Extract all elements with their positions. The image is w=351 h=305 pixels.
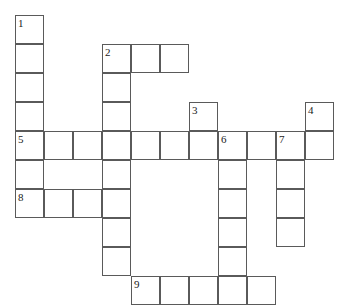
crossword-cell[interactable] [102, 218, 131, 247]
clue-number: 5 [18, 132, 24, 146]
crossword-cell[interactable] [218, 160, 247, 189]
clue-number: 4 [308, 103, 314, 117]
crossword-cell[interactable] [247, 276, 276, 305]
crossword-cell[interactable] [276, 189, 305, 218]
crossword-cell[interactable] [102, 160, 131, 189]
crossword-cell[interactable] [218, 276, 247, 305]
crossword-cell[interactable] [15, 73, 44, 102]
crossword-cell[interactable]: 7 [276, 131, 305, 160]
crossword-cell[interactable]: 2 [102, 44, 131, 73]
crossword-cell[interactable] [276, 160, 305, 189]
clue-number: 6 [221, 132, 227, 146]
crossword-cell[interactable] [131, 44, 160, 73]
crossword-cell[interactable] [73, 189, 102, 218]
clue-number: 8 [18, 190, 24, 204]
crossword-cell[interactable]: 1 [15, 15, 44, 44]
crossword-cell[interactable] [247, 131, 276, 160]
crossword-cell[interactable] [15, 102, 44, 131]
crossword-cell[interactable] [44, 131, 73, 160]
clue-number: 2 [105, 45, 111, 59]
crossword-cell[interactable] [131, 131, 160, 160]
crossword-cell[interactable]: 8 [15, 189, 44, 218]
crossword-cell[interactable] [189, 276, 218, 305]
crossword-cell[interactable] [189, 131, 218, 160]
crossword-cell[interactable] [102, 102, 131, 131]
crossword-cell[interactable]: 9 [131, 276, 160, 305]
crossword-cell[interactable]: 5 [15, 131, 44, 160]
crossword-cell[interactable] [218, 247, 247, 276]
crossword-cell[interactable] [15, 160, 44, 189]
clue-number: 1 [18, 16, 24, 30]
crossword-cell[interactable] [15, 44, 44, 73]
crossword-cell[interactable] [44, 189, 73, 218]
clue-number: 7 [279, 132, 285, 146]
clue-number: 9 [134, 277, 140, 291]
crossword-cell[interactable] [218, 189, 247, 218]
crossword-cell[interactable]: 4 [305, 102, 334, 131]
crossword-cell[interactable]: 6 [218, 131, 247, 160]
crossword-cell[interactable] [218, 218, 247, 247]
crossword-cell[interactable] [102, 189, 131, 218]
crossword-cell[interactable] [160, 276, 189, 305]
crossword-cell[interactable] [305, 131, 334, 160]
crossword-cell[interactable] [102, 247, 131, 276]
crossword-cell[interactable] [102, 73, 131, 102]
crossword-cell[interactable] [102, 131, 131, 160]
crossword-cell[interactable] [73, 131, 102, 160]
crossword-cell[interactable]: 3 [189, 102, 218, 131]
crossword-cell[interactable] [160, 131, 189, 160]
crossword-cell[interactable] [276, 218, 305, 247]
crossword-cell[interactable] [160, 44, 189, 73]
clue-number: 3 [192, 103, 198, 117]
